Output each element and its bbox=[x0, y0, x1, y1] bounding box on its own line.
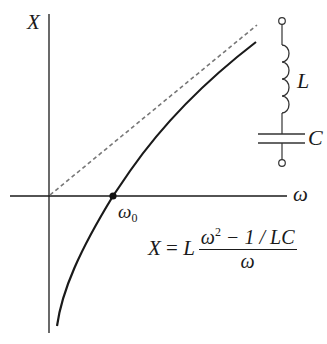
reactance-formula: X = L ω2 − 1 / LC ω bbox=[148, 226, 297, 271]
inductor-icon bbox=[282, 45, 289, 113]
formula-numerator: ω2 − 1 / LC bbox=[199, 226, 297, 250]
capacitor-label: C bbox=[308, 127, 323, 149]
formula-denominator: ω bbox=[241, 250, 255, 271]
formula-fraction: ω2 − 1 / LC ω bbox=[199, 226, 297, 271]
inductor-label: L bbox=[297, 70, 309, 92]
formula-lhs: X bbox=[148, 238, 161, 259]
bottom-terminal-icon bbox=[279, 160, 286, 167]
formula-coefficient: L bbox=[183, 238, 195, 259]
reactance-curve bbox=[57, 42, 256, 326]
resonance-label-subscript: 0 bbox=[131, 211, 137, 225]
top-terminal-icon bbox=[279, 18, 286, 25]
resonance-label-base: ω bbox=[118, 201, 131, 222]
diagram-canvas bbox=[0, 0, 327, 344]
asymptote-dashed-line bbox=[50, 25, 257, 195]
y-axis-label: X bbox=[27, 12, 40, 33]
numerator-omega: ω bbox=[201, 226, 215, 248]
numerator-rest: − 1 / LC bbox=[221, 226, 295, 248]
resonance-label: ω0 bbox=[118, 202, 137, 224]
formula-equals: = bbox=[161, 238, 183, 259]
resonance-point-dot bbox=[109, 192, 116, 199]
reactance-diagram: X ω ω0 L C X = L ω2 − 1 / LC ω bbox=[0, 0, 327, 344]
x-axis-label: ω bbox=[293, 184, 308, 205]
